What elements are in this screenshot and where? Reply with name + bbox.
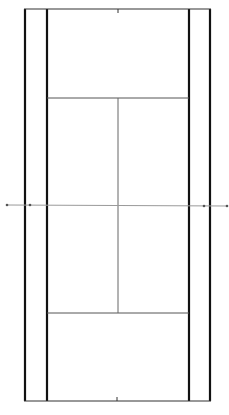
net-post-outer-right	[226, 205, 229, 208]
background	[0, 0, 229, 415]
net-post-inner-right	[203, 205, 206, 208]
net-post-outer-left	[6, 204, 9, 207]
net-post-inner-left	[29, 204, 32, 207]
tennis-court-diagram	[0, 0, 229, 415]
